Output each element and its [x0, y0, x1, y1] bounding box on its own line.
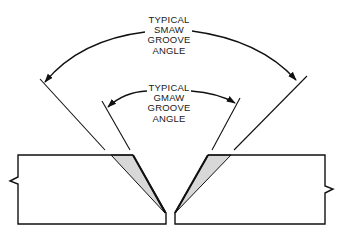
gmaw-groove-angle-label: TYPICAL GMAW GROOVE ANGLE [134, 83, 204, 124]
gmaw-label-line-4: ANGLE [134, 114, 204, 124]
left-plate [10, 155, 166, 224]
gmaw-extension-line-right [212, 98, 240, 150]
gmaw-extension-line-left [102, 101, 130, 150]
smaw-extension-line-left [40, 79, 105, 150]
smaw-label-line-4: ANGLE [134, 46, 204, 56]
smaw-arc-left [45, 32, 145, 82]
smaw-arc-right [192, 31, 296, 80]
right-plate-outline [175, 155, 333, 224]
right-plate [175, 155, 333, 224]
smaw-extension-line-right [234, 76, 307, 150]
smaw-groove-angle-label: TYPICAL SMAW GROOVE ANGLE [134, 15, 204, 56]
